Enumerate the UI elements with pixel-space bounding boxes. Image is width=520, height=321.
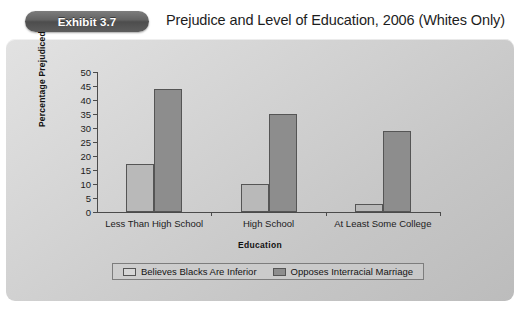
y-tick-mark: [93, 114, 97, 115]
y-tick-mark: [93, 86, 97, 87]
legend-item: Believes Blacks Are Inferior: [123, 266, 257, 277]
x-axis-category-label: High School: [243, 218, 294, 229]
y-tick-label: 30: [80, 123, 91, 134]
bar: [154, 89, 182, 212]
chart-panel: Percentage Prejudiced Education 05101520…: [6, 39, 514, 301]
exhibit-figure: Exhibit 3.7 Prejudice and Level of Educa…: [0, 0, 520, 321]
y-tick-label: 45: [80, 81, 91, 92]
x-tick-mark: [211, 212, 212, 216]
x-axis-category-label: Less Than High School: [105, 218, 203, 229]
legend-label: Believes Blacks Are Inferior: [141, 266, 257, 277]
y-tick-mark: [93, 156, 97, 157]
legend-item: Opposes Interracial Marriage: [273, 266, 414, 277]
exhibit-title: Prejudice and Level of Education, 2006 (…: [166, 12, 505, 28]
y-axis-line: [97, 72, 98, 213]
exhibit-number-badge: Exhibit 3.7: [25, 11, 149, 32]
y-tick-mark: [93, 128, 97, 129]
y-tick-label: 40: [80, 95, 91, 106]
y-tick-mark: [93, 72, 97, 73]
bar: [355, 204, 383, 212]
bar: [126, 164, 154, 212]
y-tick-label: 5: [86, 193, 91, 204]
bar: [383, 131, 411, 212]
x-tick-mark: [326, 212, 327, 216]
y-tick-label: 20: [80, 151, 91, 162]
y-axis-title: Percentage Prejudiced: [37, 31, 47, 127]
chart-legend: Believes Blacks Are Inferior Opposes Int…: [112, 263, 424, 280]
bar: [269, 114, 297, 212]
legend-label: Opposes Interracial Marriage: [291, 266, 414, 277]
y-tick-mark: [93, 142, 97, 143]
y-tick-mark: [93, 198, 97, 199]
x-axis-title: Education: [6, 240, 514, 250]
legend-swatch-icon: [123, 268, 136, 276]
plot-area: 05101520253035404550 Less Than High Scho…: [97, 72, 440, 212]
x-tick-mark: [440, 212, 441, 216]
y-tick-label: 10: [80, 179, 91, 190]
bar: [241, 184, 269, 212]
y-tick-label: 15: [80, 165, 91, 176]
y-tick-mark: [93, 100, 97, 101]
y-tick-mark: [93, 170, 97, 171]
exhibit-header: Exhibit 3.7 Prejudice and Level of Educa…: [0, 0, 520, 40]
x-axis-category-label: At Least Some College: [334, 218, 431, 229]
y-tick-label: 25: [80, 137, 91, 148]
y-tick-mark: [93, 212, 97, 213]
y-tick-mark: [93, 184, 97, 185]
legend-swatch-icon: [273, 268, 286, 276]
y-tick-label: 50: [80, 67, 91, 78]
y-tick-label: 0: [86, 207, 91, 218]
y-tick-label: 35: [80, 109, 91, 120]
x-axis-line: [97, 212, 440, 213]
